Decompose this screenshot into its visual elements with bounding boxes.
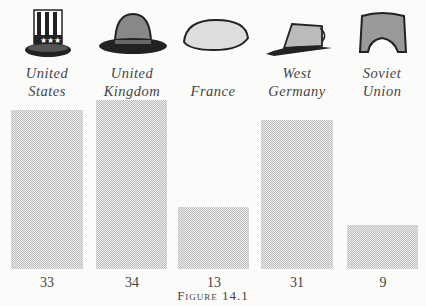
category-label-united-states: UnitedStates (5, 64, 89, 100)
bar-soviet-union (347, 225, 418, 269)
beret-icon (180, 8, 252, 60)
bar-united-states (11, 110, 83, 269)
uncle-sam-top-hat-icon: ★★★ (12, 8, 84, 60)
fur-ushanka-hat-icon (346, 8, 418, 60)
bar-united-kingdom (96, 100, 167, 269)
bar-west-germany (261, 120, 333, 269)
category-label-west-germany: WestGermany (255, 64, 339, 100)
category-label-united-kingdom: UnitedKingdom (90, 64, 174, 100)
category-label-france: France (171, 82, 255, 100)
bar-france (178, 207, 249, 269)
figure-caption: Figure 14.1 (0, 288, 426, 304)
category-label-soviet-union: SovietUnion (340, 64, 424, 100)
alpine-feathered-hat-icon (262, 8, 334, 60)
bowler-hat-icon (97, 8, 169, 60)
